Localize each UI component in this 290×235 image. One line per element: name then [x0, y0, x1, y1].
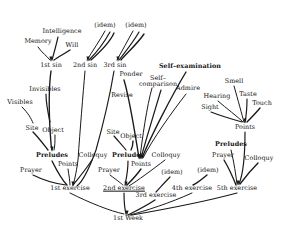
- node-label-prayer-2: Prayer: [98, 167, 120, 174]
- node-label-exercise-3: 3rd exercise: [136, 192, 177, 199]
- node-label-idem-d: (idem): [197, 167, 218, 174]
- node-label-site-2: Site: [107, 129, 120, 136]
- node-label-line: comparison: [139, 81, 177, 87]
- node-label-revise: Revise: [111, 92, 133, 99]
- node-label-prayer-1: Prayer: [20, 167, 42, 174]
- node-label-intelligence: Intelligence: [42, 28, 81, 35]
- node-label-self-comparison: Self–comparison: [139, 75, 177, 88]
- branch-line: [33, 132, 48, 150]
- branch-line: [54, 135, 55, 150]
- branch-line: [54, 50, 70, 60]
- node-label-self-examination: Self–examination: [159, 63, 221, 70]
- node-label-points-2: Points: [131, 161, 151, 168]
- node-label-preludes-1: Preludes: [36, 152, 68, 159]
- branch-line: [49, 71, 52, 150]
- node-label-admire: Admire: [176, 85, 200, 92]
- node-label-will: Will: [66, 42, 79, 49]
- branch-line: [38, 47, 50, 60]
- node-label-root-first-week: 1st Week: [113, 215, 143, 222]
- branch-line: [22, 107, 33, 123]
- branch-line: [89, 32, 110, 60]
- branch-line: [131, 141, 133, 150]
- node-label-object-1: Object: [42, 127, 64, 134]
- branch-line: [52, 37, 58, 60]
- node-label-taste: Taste: [239, 91, 256, 98]
- node-label-idem-c: (idem): [161, 169, 182, 176]
- branch-line: [119, 32, 139, 60]
- node-label-site-1: Site: [26, 125, 39, 132]
- node-label-sin1: 1st sin: [40, 62, 62, 69]
- node-label-colloquy-1: Colloquy: [79, 152, 108, 159]
- node-label-colloquy-3: Colloquy: [245, 155, 274, 162]
- branch-line: [73, 71, 85, 185]
- node-label-colloquy-2: Colloquy: [152, 152, 181, 159]
- node-label-sin2: 2nd sin: [73, 62, 97, 69]
- node-label-object-2: Object: [120, 133, 142, 140]
- node-label-preludes-3: Preludes: [215, 141, 247, 148]
- node-label-exercise-1: 1st exercise: [50, 185, 89, 192]
- node-label-hearing: Hearing: [204, 93, 231, 100]
- node-label-prayer-3: Prayer: [212, 152, 234, 159]
- node-label-exercise-4: 4th exercise: [172, 185, 212, 192]
- node-label-points-1: Points: [58, 161, 78, 168]
- node-label-sight: Sight: [201, 104, 218, 111]
- branch-line: [125, 161, 128, 185]
- branch-line: [247, 108, 260, 122]
- branch-line: [91, 33, 114, 60]
- node-label-memory: Memory: [24, 38, 51, 45]
- node-label-sin3: 3rd sin: [103, 62, 126, 69]
- node-label-exercise-5: 5th exercise: [217, 185, 257, 192]
- branch-line: [70, 193, 124, 214]
- node-label-idem-a: (idem): [94, 22, 115, 29]
- node-label-smell: Smell: [225, 78, 244, 85]
- node-label-idem-b: (idem): [125, 22, 146, 29]
- node-label-preludes-2: Preludes: [112, 152, 144, 159]
- node-label-points-3: Points: [235, 124, 255, 131]
- branch-line: [68, 169, 70, 185]
- tree-branches: [0, 0, 290, 235]
- node-label-visibles: Visibles: [7, 99, 32, 106]
- node-label-invisibles: Invisibles: [29, 86, 60, 93]
- branch-line: [143, 94, 186, 158]
- diagram-canvas: MemoryIntelligenceWill1st sin(idem)2nd s…: [0, 0, 290, 235]
- node-label-touch: Touch: [252, 100, 272, 107]
